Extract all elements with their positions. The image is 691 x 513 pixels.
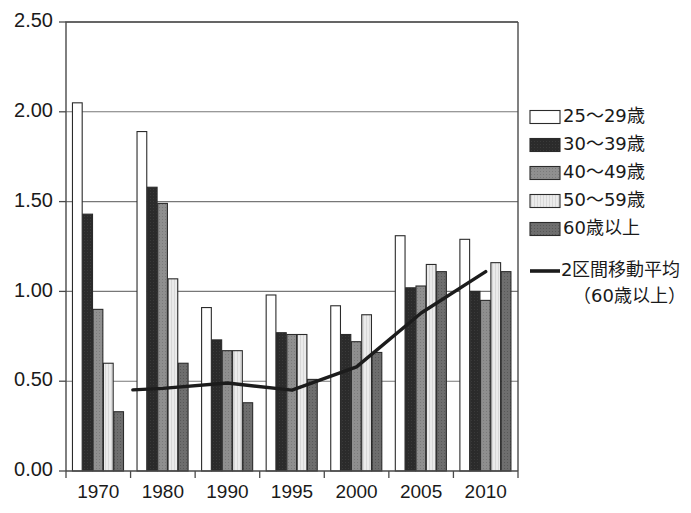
- x-axis-tick-label: 2005: [400, 481, 442, 502]
- bar: [287, 335, 297, 472]
- chart-legend: 25〜29歳30〜39歳40〜49歳50〜59歳60歳以上2区間移動平均（60歳…: [530, 105, 686, 306]
- legend-label: 25〜29歳: [563, 105, 645, 126]
- bar: [83, 214, 93, 471]
- x-axis-ticks: [66, 471, 518, 478]
- bar: [222, 351, 232, 471]
- y-axis-tick-label: 1.00: [14, 279, 53, 301]
- legend-swatch: [530, 167, 560, 180]
- bar: [491, 263, 501, 471]
- y-axis-tick-label: 2.50: [14, 9, 53, 31]
- bar: [137, 132, 147, 471]
- bar: [395, 236, 405, 471]
- bar: [114, 412, 124, 471]
- legend-label: 40〜49歳: [563, 161, 645, 182]
- chart-container: 0.000.501.001.502.002.50 197019801990199…: [0, 0, 691, 513]
- bar: [158, 203, 168, 471]
- y-axis-tick-label: 1.50: [14, 189, 53, 211]
- x-axis-tick-label: 1995: [271, 481, 313, 502]
- bars-layer: [72, 103, 510, 471]
- bar: [501, 272, 511, 471]
- bar: [243, 403, 253, 471]
- chart-canvas: 0.000.501.001.502.002.50 197019801990199…: [0, 0, 691, 513]
- bar: [362, 315, 372, 471]
- bar: [372, 352, 382, 471]
- legend-swatch: [530, 195, 560, 208]
- bar: [406, 288, 416, 471]
- x-axis-tick-label: 2010: [465, 481, 507, 502]
- y-axis-labels: 0.000.501.001.502.002.50: [14, 9, 53, 480]
- bar: [481, 300, 491, 471]
- legend-swatch: [530, 223, 560, 236]
- bar: [351, 342, 361, 471]
- legend-label: 60歳以上: [563, 217, 640, 238]
- bar: [297, 335, 307, 472]
- x-axis-tick-label: 1970: [77, 481, 119, 502]
- legend-label: 2区間移動平均: [561, 259, 680, 280]
- x-axis-tick-label: 1990: [206, 481, 248, 502]
- bar: [308, 379, 318, 471]
- x-axis-tick-label: 2000: [335, 481, 377, 502]
- bar: [470, 291, 480, 471]
- bar: [93, 309, 103, 471]
- y-axis-tick-label: 0.00: [14, 458, 53, 480]
- legend-label-secondline: （60歳以上）: [573, 285, 686, 306]
- bar: [233, 351, 243, 471]
- legend-label: 30〜39歳: [563, 133, 645, 154]
- bar: [147, 187, 157, 471]
- bar: [460, 239, 470, 471]
- bar: [103, 363, 113, 471]
- bar: [202, 308, 212, 471]
- legend-swatch: [530, 111, 560, 124]
- bar: [266, 295, 276, 471]
- x-axis-tick-label: 1980: [142, 481, 184, 502]
- bar: [426, 264, 436, 471]
- x-axis-labels: 1970198019901995200020052010: [77, 481, 507, 502]
- bar: [341, 335, 351, 472]
- legend-swatch: [530, 139, 560, 152]
- bar: [178, 363, 188, 471]
- bar: [277, 333, 287, 471]
- bar: [72, 103, 82, 471]
- grid-lines: [66, 22, 518, 381]
- legend-label: 50〜59歳: [563, 189, 645, 210]
- bar: [168, 279, 178, 471]
- y-axis-tick-label: 2.00: [14, 99, 53, 121]
- bar: [331, 306, 341, 471]
- y-axis-ticks: [59, 22, 66, 471]
- y-axis-tick-label: 0.50: [14, 368, 53, 390]
- bar: [212, 340, 222, 471]
